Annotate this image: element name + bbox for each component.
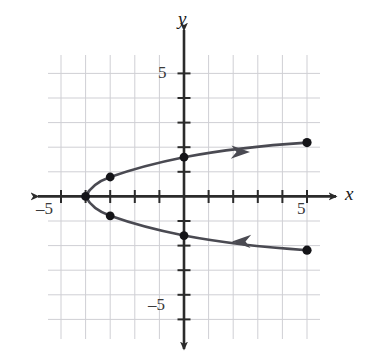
lower-branch (86, 196, 307, 250)
x-axis-label: x (345, 183, 353, 205)
graph-figure: x y 5 –5 5 –5 (0, 0, 377, 359)
point-upper-near (106, 173, 115, 182)
upper-branch (86, 143, 307, 197)
y-axis-label: y (178, 8, 186, 30)
x-tick-label-positive: 5 (297, 199, 306, 219)
point-lower-yint (180, 231, 189, 240)
point-lower-endpoint (302, 246, 311, 255)
x-tick-label-negative: –5 (36, 199, 53, 219)
point-vertex (81, 192, 90, 201)
y-tick-label-negative: –5 (148, 295, 165, 315)
point-upper-endpoint (302, 138, 311, 147)
y-tick-label-positive: 5 (158, 63, 167, 83)
axes (38, 30, 336, 349)
point-lower-near (106, 211, 115, 220)
coordinate-plane-svg (0, 0, 377, 359)
point-upper-yint (180, 153, 189, 162)
